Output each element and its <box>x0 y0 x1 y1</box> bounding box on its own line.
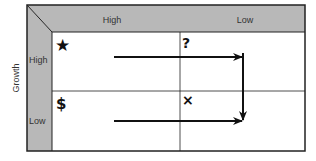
cross-icon: × <box>182 92 194 108</box>
growth-axis-label: Growth <box>11 63 21 92</box>
star-icon: ★ <box>55 35 70 55</box>
row-label-low: Low <box>29 116 46 126</box>
column-header-band <box>27 5 305 32</box>
question-mark-icon: ? <box>182 35 190 51</box>
column-label-high: High <box>103 15 122 25</box>
column-label-low: Low <box>237 15 254 25</box>
row-label-high: High <box>29 55 48 65</box>
dollar-icon: $ <box>56 95 66 113</box>
growth-share-matrix: High Low High Low Growth ★ ? $ × <box>0 0 316 161</box>
